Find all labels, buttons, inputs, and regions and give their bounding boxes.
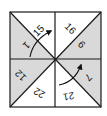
triangle-square-diagram: 15 1 16 9 12 22 7 21 xyxy=(0,0,107,116)
